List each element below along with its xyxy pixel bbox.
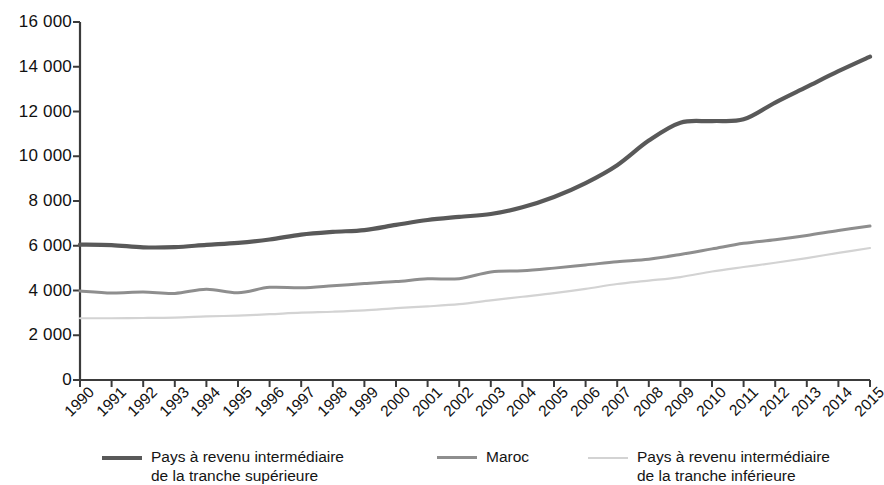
y-tick-label: 16 000	[0, 13, 72, 30]
y-tick-label: 10 000	[0, 147, 72, 164]
legend-swatch-lower-middle-income	[588, 457, 628, 459]
legend-item-upper-middle-income: Pays à revenu intermédiaire de la tranch…	[102, 448, 344, 485]
series-line-0	[80, 57, 870, 248]
line-chart: 02 0004 0006 0008 00010 00012 00014 0001…	[0, 0, 884, 485]
legend-label-upper-middle-income: Pays à revenu intermédiaire de la tranch…	[151, 448, 344, 485]
chart-legend: Pays à revenu intermédiaire de la tranch…	[0, 448, 884, 485]
legend-item-maroc: Maroc	[437, 448, 529, 467]
legend-item-lower-middle-income: Pays à revenu intermédiaire de la tranch…	[588, 448, 830, 485]
y-tick-label: 12 000	[0, 103, 72, 120]
y-tick-label: 0	[0, 371, 72, 388]
legend-swatch-upper-middle-income	[102, 456, 142, 460]
legend-label-lower-middle-income: Pays à revenu intermédiaire de la tranch…	[637, 448, 830, 485]
plot-svg	[80, 22, 870, 380]
series-line-2	[80, 248, 870, 318]
series-line-1	[80, 226, 870, 293]
y-tick-label: 8 000	[0, 192, 72, 209]
y-tick-label: 14 000	[0, 58, 72, 75]
x-axis: 1990199119921993199419951996199719981999…	[80, 384, 880, 444]
plot-area	[80, 22, 870, 380]
y-tick-label: 6 000	[0, 237, 72, 254]
y-axis: 02 0004 0006 0008 00010 00012 00014 0001…	[0, 0, 72, 400]
y-tick-label: 2 000	[0, 326, 72, 343]
legend-label-maroc: Maroc	[486, 448, 529, 467]
legend-swatch-maroc	[437, 456, 477, 459]
y-tick-label: 4 000	[0, 282, 72, 299]
